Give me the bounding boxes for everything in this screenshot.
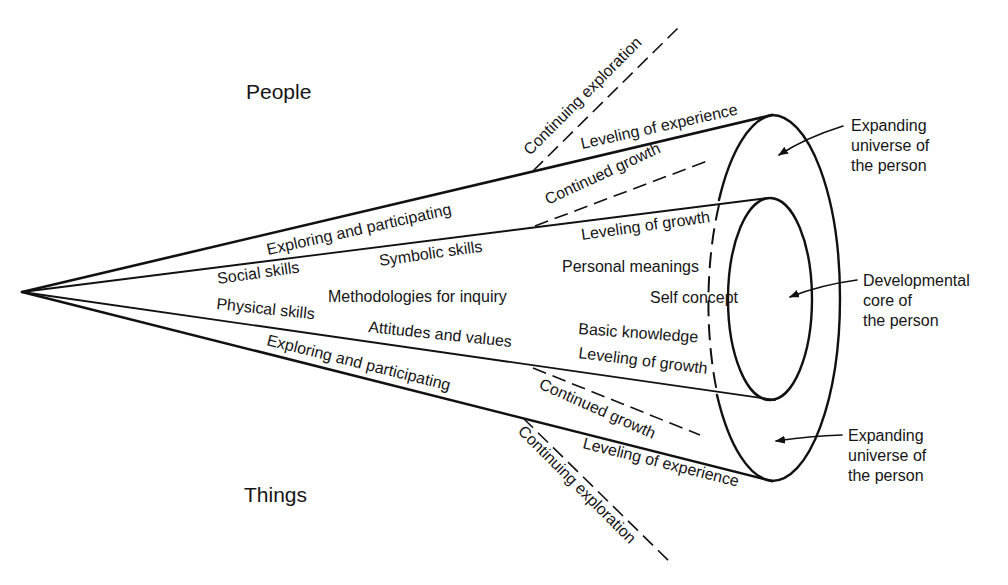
upper-universe-line-3: the person: [851, 157, 927, 174]
upper-leveling-experience-label: Leveling of experience: [579, 101, 739, 152]
lower-leveling-growth-label: Leveling of growth: [578, 344, 709, 377]
callout-upper-universe: Expanding universe of the person: [851, 117, 930, 174]
self-concept-label: Self concept: [650, 289, 739, 306]
core-line-3: the person: [863, 312, 939, 329]
callout-arrows: [776, 126, 857, 441]
arrow-core: [790, 280, 857, 297]
basic-knowledge-label: Basic knowledge: [578, 320, 699, 345]
diagram-canvas: People Things Exploring and participatin…: [0, 0, 1008, 585]
outer-ellipse-right: [772, 115, 840, 481]
core-line-1: Developmental: [863, 272, 970, 289]
callout-lower-universe: Expanding universe of the person: [848, 427, 927, 484]
core-line-2: core of: [863, 292, 912, 309]
people-label: People: [246, 80, 311, 103]
things-label: Things: [244, 483, 307, 506]
arrow-upper-universe: [779, 126, 843, 155]
lower-continued-growth-label: Continued growth: [537, 375, 658, 442]
cone-diagram: People Things Exploring and participatin…: [0, 0, 1008, 585]
symbolic-skills-label: Symbolic skills: [378, 238, 483, 269]
personal-meanings-label: Personal meanings: [562, 258, 699, 275]
inner-ellipse: [728, 198, 812, 400]
arrow-lower-universe: [776, 435, 842, 441]
lower-universe-line-1: Expanding: [848, 427, 924, 444]
upper-universe-line-1: Expanding: [851, 117, 927, 134]
lower-universe-line-3: the person: [848, 467, 924, 484]
outer-ellipse-left-upper: [719, 115, 772, 200]
upper-universe-line-2: universe of: [851, 137, 930, 154]
inner-bottom-line: [22, 292, 775, 400]
lower-universe-line-2: universe of: [848, 447, 927, 464]
upper-continued-growth-label: Continued growth: [542, 139, 663, 207]
methodologies-label: Methodologies for inquiry: [328, 288, 507, 305]
lower-leveling-experience-label: Leveling of experience: [581, 434, 741, 489]
callout-core: Developmental core of the person: [863, 272, 970, 329]
lower-continuing-exploration-label: Continuing exploration: [515, 422, 640, 547]
physical-skills-label: Physical skills: [216, 295, 316, 322]
